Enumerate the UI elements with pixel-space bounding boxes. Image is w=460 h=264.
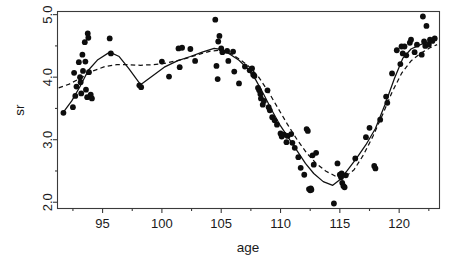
data-point xyxy=(261,98,267,104)
data-point xyxy=(71,70,77,76)
data-point xyxy=(288,131,294,137)
y-tick-label: 5.0 xyxy=(40,6,55,24)
plot-canvas: 95100105110115120 2.03.04.05.0 age sr xyxy=(0,0,460,264)
fit-curve-dashed-fit xyxy=(59,45,437,178)
data-point xyxy=(187,46,193,52)
data-point xyxy=(284,139,290,145)
data-point xyxy=(249,66,255,72)
data-point xyxy=(215,76,221,82)
data-point xyxy=(367,125,373,131)
data-point xyxy=(295,154,301,160)
data-point xyxy=(389,71,395,77)
data-point xyxy=(138,84,144,90)
y-axis-ticks xyxy=(53,15,58,203)
data-point xyxy=(412,49,418,55)
data-point xyxy=(217,33,223,39)
data-point xyxy=(408,37,414,43)
data-point xyxy=(166,74,172,80)
data-point xyxy=(403,52,409,58)
data-point xyxy=(384,100,390,106)
y-tick-label: 3.0 xyxy=(40,131,55,149)
scatter-plot-figure: 95100105110115120 2.03.04.05.0 age sr xyxy=(0,0,460,264)
data-point xyxy=(74,84,80,90)
data-point xyxy=(78,79,84,85)
data-point xyxy=(301,172,307,178)
data-point xyxy=(61,110,67,116)
x-axis-title: age xyxy=(237,240,260,255)
data-point xyxy=(298,165,304,171)
data-point xyxy=(85,35,91,41)
fitted-curves xyxy=(59,40,437,186)
data-point xyxy=(252,73,258,79)
data-point xyxy=(231,69,237,75)
data-point xyxy=(274,122,280,128)
data-point xyxy=(267,107,273,113)
data-point xyxy=(212,17,218,23)
data-point xyxy=(402,44,408,50)
data-point xyxy=(343,172,349,178)
data-point xyxy=(424,23,430,29)
data-point xyxy=(80,52,86,58)
data-point xyxy=(397,61,403,67)
data-point xyxy=(377,117,383,123)
data-point xyxy=(308,187,314,193)
x-tick-label: 115 xyxy=(329,216,350,231)
x-tick-label: 100 xyxy=(151,216,173,231)
data-point xyxy=(414,42,420,48)
x-tick-label: 95 xyxy=(95,216,109,231)
data-point xyxy=(420,14,426,20)
data-point xyxy=(265,87,271,93)
data-point xyxy=(236,81,242,87)
x-tick-label: 110 xyxy=(270,216,291,231)
data-point xyxy=(108,51,114,57)
data-point xyxy=(215,39,221,45)
fit-curve-solid-fit xyxy=(63,40,436,186)
x-axis-ticks xyxy=(73,209,429,214)
y-tick-label: 4.0 xyxy=(40,68,55,86)
data-point xyxy=(89,96,95,102)
data-points xyxy=(61,14,438,207)
data-point xyxy=(289,140,295,146)
data-point xyxy=(394,47,400,53)
data-point xyxy=(107,35,113,41)
data-point xyxy=(363,134,369,140)
data-point xyxy=(292,145,298,151)
data-point xyxy=(159,59,165,65)
data-point xyxy=(432,35,438,41)
data-point xyxy=(383,94,389,100)
data-point xyxy=(72,93,78,99)
data-point xyxy=(214,63,220,69)
data-point xyxy=(342,184,348,190)
data-point xyxy=(373,166,379,172)
y-axis-title: sr xyxy=(12,104,27,116)
data-point xyxy=(305,128,311,134)
data-point xyxy=(313,150,319,156)
data-point xyxy=(419,52,425,58)
data-point xyxy=(311,162,317,168)
data-point xyxy=(70,104,76,110)
data-point xyxy=(78,91,84,97)
data-point xyxy=(242,64,248,70)
data-point xyxy=(224,48,230,54)
x-tick-label: 105 xyxy=(210,216,232,231)
data-point xyxy=(225,58,231,64)
data-point xyxy=(179,45,185,51)
y-axis-tick-labels: 2.03.04.05.0 xyxy=(40,6,55,212)
x-tick-label: 120 xyxy=(388,216,410,231)
data-point xyxy=(331,201,337,207)
data-point xyxy=(77,74,83,80)
data-point xyxy=(76,59,82,65)
data-point xyxy=(82,59,88,65)
y-tick-label: 2.0 xyxy=(40,193,55,211)
data-point xyxy=(83,87,89,93)
x-axis-tick-labels: 95100105110115120 xyxy=(95,216,410,231)
data-point xyxy=(86,69,92,75)
data-point xyxy=(177,64,183,70)
data-point xyxy=(80,68,86,74)
data-point xyxy=(335,161,341,167)
data-point xyxy=(230,49,236,55)
data-point xyxy=(192,58,198,64)
data-point xyxy=(352,156,358,162)
